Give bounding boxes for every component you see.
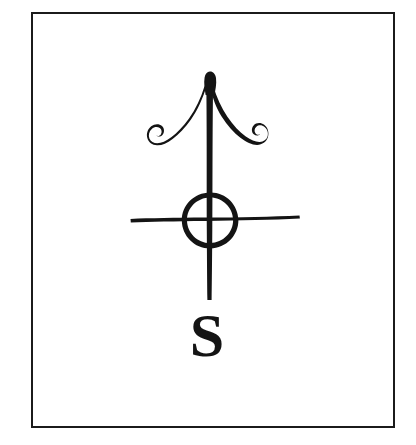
alchemical-sigil: S bbox=[0, 0, 416, 445]
left-spiral-barb bbox=[147, 86, 207, 145]
sigil-plate: S bbox=[0, 0, 416, 445]
sigil-letter-text: S bbox=[190, 301, 224, 369]
horizontal-crossbar bbox=[131, 215, 300, 222]
right-spiral-barb bbox=[210, 86, 268, 145]
sigil-letter: S bbox=[190, 301, 224, 369]
sigil-drawing: S bbox=[0, 0, 416, 445]
